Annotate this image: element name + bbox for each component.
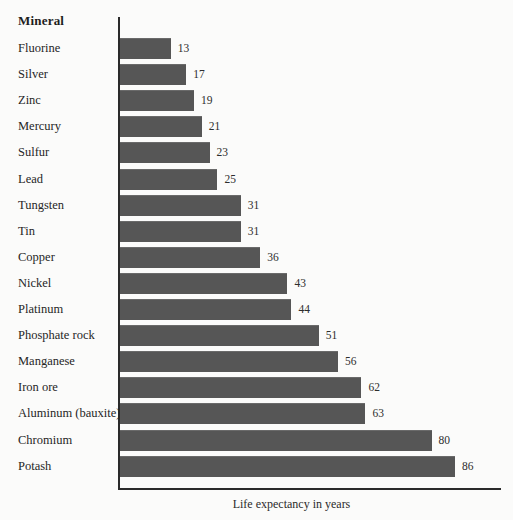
bar-value-label: 31 [248,192,260,218]
bar [120,299,291,320]
bar-row: Nickel43 [0,270,513,296]
bar-value-label: 23 [217,139,229,165]
bar [120,195,241,216]
category-label: Tin [18,218,35,244]
bar-row: Tungsten31 [0,192,513,218]
category-label: Tungsten [18,192,64,218]
bar [120,351,338,372]
category-label: Aluminum (bauxite) [18,400,120,426]
bar [120,221,241,242]
x-axis-line [118,488,501,490]
bar [120,142,210,163]
bar [120,247,260,268]
bar-value-label: 19 [201,87,213,113]
bar-value-label: 63 [372,400,384,426]
bar-value-label: 56 [345,348,357,374]
bar [120,377,361,398]
bar-value-label: 21 [209,113,221,139]
bar [120,273,287,294]
category-label: Iron ore [18,374,58,400]
bar-row: Platinum44 [0,296,513,322]
category-label: Fluorine [18,35,60,61]
bar [120,64,186,85]
category-label: Potash [18,453,51,479]
bar-row: Copper36 [0,244,513,270]
bar-value-label: 44 [298,296,310,322]
bar-row: Iron ore62 [0,374,513,400]
bar-value-label: 80 [439,427,451,453]
category-label: Mercury [18,113,61,139]
bar [120,116,202,137]
category-label: Zinc [18,87,41,113]
bar-value-label: 31 [248,218,260,244]
bar-value-label: 13 [178,35,190,61]
bar-value-label: 51 [326,322,338,348]
category-label: Lead [18,166,43,192]
bar-value-label: 86 [462,453,474,479]
bar-value-label: 25 [224,166,236,192]
bar-row: Aluminum (bauxite)63 [0,400,513,426]
category-label: Sulfur [18,139,49,165]
category-label: Copper [18,244,55,270]
bar-value-label: 36 [267,244,279,270]
bar-value-label: 43 [294,270,306,296]
bar [120,403,365,424]
category-column-header: Mineral [18,13,64,29]
category-label: Chromium [18,427,72,453]
bar [120,430,432,451]
bar [120,90,194,111]
bar-row: Potash86 [0,453,513,479]
bar-value-label: 17 [193,61,205,87]
bar-row: Sulfur23 [0,139,513,165]
category-label: Silver [18,61,48,87]
bar-row: Phosphate rock51 [0,322,513,348]
bar-row: Chromium80 [0,427,513,453]
bar [120,456,455,477]
category-label: Platinum [18,296,63,322]
category-label: Nickel [18,270,51,296]
bar-row: Fluorine13 [0,35,513,61]
bar [120,38,171,59]
bar-row: Lead25 [0,166,513,192]
x-axis-title: Life expectancy in years [0,497,513,512]
bar-row: Mercury21 [0,113,513,139]
bar-row: Tin31 [0,218,513,244]
bar-value-label: 62 [368,374,380,400]
bar-chart: Mineral Fluorine13Silver17Zinc19Mercury2… [0,0,513,520]
category-label: Phosphate rock [18,322,95,348]
bar-row: Zinc19 [0,87,513,113]
bar [120,325,319,346]
bar [120,169,217,190]
bar-row: Silver17 [0,61,513,87]
bar-row: Manganese56 [0,348,513,374]
category-label: Manganese [18,348,75,374]
x-axis-title-text: Life expectancy in years [163,497,351,511]
